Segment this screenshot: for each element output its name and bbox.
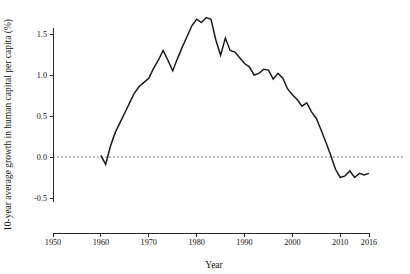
x-tick-label: 1960 [93, 238, 109, 247]
x-axis-title: Year [205, 260, 223, 270]
y-axis-tick-labels: -0.50.00.51.01.5 [34, 30, 47, 203]
x-tick-label: 1990 [236, 238, 252, 247]
y-tick-label: 1.0 [37, 71, 47, 80]
x-tick-label: 1980 [188, 238, 204, 247]
x-axis-tick-marks [53, 233, 369, 237]
x-axis-tick-labels: 19501960197019801990200020102016 [45, 238, 377, 247]
x-tick-label: 2010 [332, 238, 348, 247]
x-tick-label: 2016 [361, 238, 377, 247]
y-tick-label: -0.5 [34, 194, 47, 203]
y-axis-tick-marks [50, 34, 54, 198]
y-axis-title: 10-year average growth in human capital … [3, 19, 14, 231]
y-tick-label: 0.0 [37, 153, 47, 162]
x-tick-label: 1970 [141, 238, 157, 247]
y-tick-label: 0.5 [37, 112, 47, 121]
chart-figure: -0.50.00.51.01.5 19501960197019801990200… [0, 0, 410, 274]
series-line-human-capital-growth [101, 18, 369, 178]
line-chart-canvas: -0.50.00.51.01.5 19501960197019801990200… [0, 0, 410, 274]
x-tick-label: 2000 [284, 238, 300, 247]
x-tick-label: 1950 [45, 238, 61, 247]
y-tick-label: 1.5 [37, 30, 47, 39]
